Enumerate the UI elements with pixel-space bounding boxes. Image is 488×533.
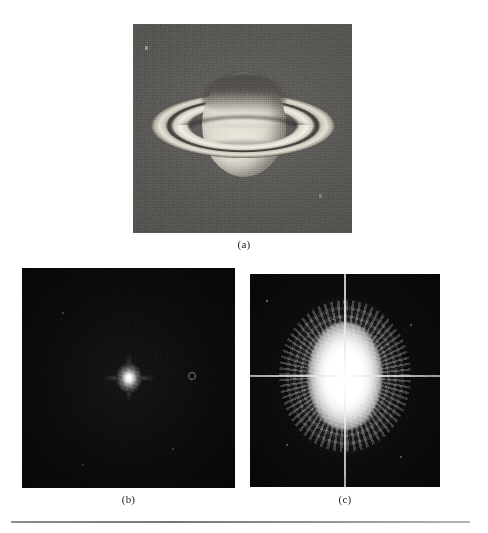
noise-speck [82,464,84,466]
spectrum-linear-canvas [22,268,235,488]
panel-c-caption: (c) [250,493,440,505]
panel-c-fourier-spectrum-log [250,274,440,487]
noise-speck [266,300,268,302]
noise-speck [172,448,174,450]
panel-b-caption: (b) [22,493,235,505]
film-speck [145,46,148,50]
panel-a-caption: (a) [0,238,488,250]
panel-a-saturn-image [133,24,352,233]
reference-circle-marker [188,372,196,380]
saturn-body-group [148,66,338,186]
noise-speck [286,444,288,446]
noise-speck [410,324,412,326]
axis-line-vertical [344,274,346,487]
figure-page: (a) (b) [0,0,488,533]
page-divider-rule [11,521,470,523]
saturn-canvas [133,24,352,233]
dc-term-bright-spot [116,363,142,393]
saturn-polar-cap [202,72,286,112]
spectrum-log-canvas [250,274,440,487]
film-speck [319,194,322,198]
noise-speck [400,456,402,458]
panel-b-fourier-spectrum-linear [22,268,235,488]
noise-speck [62,312,64,314]
